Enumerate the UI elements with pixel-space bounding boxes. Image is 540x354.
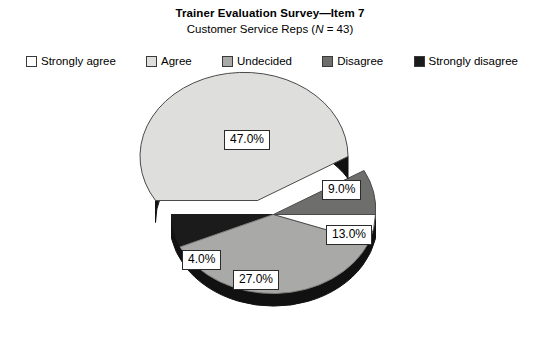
legend-item-disagree[interactable]: Disagree xyxy=(322,55,383,68)
value-label-agree: 47.0% xyxy=(224,130,270,150)
legend-label-undecided: Undecided xyxy=(237,55,292,68)
legend-label-strongly-disagree: Strongly disagree xyxy=(429,55,519,68)
pie-chart-area: 47.0% 9.0% 13.0% 4.0% 27.0% xyxy=(0,70,540,354)
chart-subtitle-pre: Customer Service Reps ( xyxy=(187,23,315,35)
chart-subtitle: Customer Service Reps (N = 43) xyxy=(0,22,540,37)
legend-label-agree: Agree xyxy=(161,55,192,68)
legend-swatch-icon-agree xyxy=(146,56,157,67)
legend-swatch-icon-undecided xyxy=(222,56,233,67)
legend-label-disagree: Disagree xyxy=(337,55,383,68)
title-block: Trainer Evaluation Survey—Item 7 Custome… xyxy=(0,6,540,37)
value-label-undecided: 27.0% xyxy=(233,270,279,290)
legend-label-strongly-agree: Strongly agree xyxy=(41,55,116,68)
legend-item-agree[interactable]: Agree xyxy=(146,55,192,68)
legend-item-undecided[interactable]: Undecided xyxy=(222,55,292,68)
chart-subtitle-n-symbol: N xyxy=(315,23,323,35)
chart-subtitle-post: = 43) xyxy=(324,23,354,35)
value-label-disagree: 9.0% xyxy=(322,180,361,200)
legend-item-strongly-disagree[interactable]: Strongly disagree xyxy=(414,55,519,68)
chart-title: Trainer Evaluation Survey—Item 7 xyxy=(0,6,540,21)
legend-swatch-icon-strongly-agree xyxy=(26,56,37,67)
value-label-strongly-agree: 13.0% xyxy=(326,225,372,245)
value-label-strongly-disagree: 4.0% xyxy=(182,250,221,270)
legend-swatch-icon-strongly-disagree xyxy=(414,56,425,67)
pie-chart-figure: Trainer Evaluation Survey—Item 7 Custome… xyxy=(0,0,540,354)
pie-chart-graphic xyxy=(0,70,540,354)
chart-legend: Strongly agree Agree Undecided Disagree … xyxy=(26,52,518,70)
legend-swatch-icon-disagree xyxy=(322,56,333,67)
legend-item-strongly-agree[interactable]: Strongly agree xyxy=(26,55,116,68)
